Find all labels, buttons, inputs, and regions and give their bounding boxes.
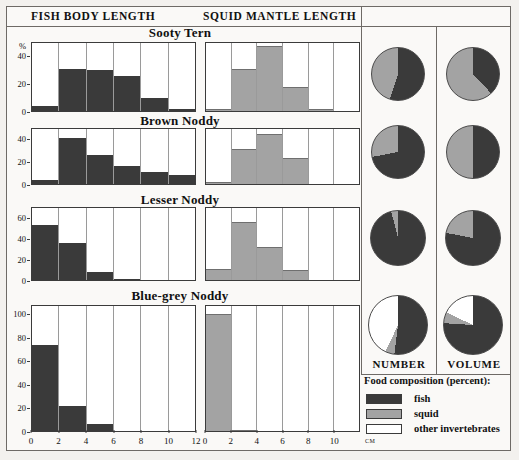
histogram-bin	[232, 43, 258, 112]
histogram-bin	[59, 129, 86, 185]
histogram-bin	[32, 208, 59, 281]
histogram-bin	[283, 43, 309, 112]
histogram-bin	[169, 43, 195, 112]
histogram-bin	[141, 129, 168, 185]
histogram-bin	[32, 43, 59, 112]
histogram-bin	[334, 129, 359, 185]
x-axis-tick-label: 8	[306, 436, 311, 446]
legend-title: Food composition (percent):	[364, 375, 490, 386]
x-axis-tickmark	[282, 430, 283, 433]
seabird-diet-figure: FISH BODY LENGTH SQUID MANTLE LENGTH Soo…	[0, 0, 519, 460]
x-axis-tickmark	[196, 430, 197, 433]
y-axis-tickmark	[27, 361, 30, 362]
x-axis-unit-label: cm	[365, 436, 375, 445]
histogram-bin	[59, 43, 86, 112]
y-axis-tickmark	[27, 385, 30, 386]
histogram-bin	[206, 129, 232, 185]
histogram-bar	[59, 138, 85, 185]
y-axis-tick-label: 100	[0, 309, 26, 319]
histogram-bin	[206, 43, 232, 112]
histogram-bin	[309, 306, 335, 432]
y-axis-tickmark	[27, 239, 30, 240]
histogram-bin	[59, 208, 86, 281]
histogram-bar	[59, 243, 85, 281]
x-axis-tickmark	[58, 430, 59, 433]
histogram-bin	[114, 129, 141, 185]
y-axis-tickmark	[27, 218, 30, 219]
y-axis-unit-label: %	[0, 41, 26, 51]
histogram-bin	[87, 129, 114, 185]
x-axis-tick-label: 4	[254, 436, 259, 446]
squid-axis-title: SQUID MANTLE LENGTH	[203, 10, 356, 22]
histogram-bar	[87, 70, 113, 112]
y-axis-tick-label: 20	[0, 157, 26, 167]
separator-number-volume	[436, 27, 437, 375]
histogram-bin	[232, 306, 258, 432]
y-axis-tick-label: 20	[0, 403, 26, 413]
x-axis-tickmark	[334, 430, 335, 433]
histogram-bins	[32, 129, 195, 185]
squid-length-histogram	[205, 305, 360, 432]
histogram-bins	[206, 43, 359, 112]
histogram-bin	[141, 43, 168, 112]
histogram-bin	[59, 306, 86, 432]
histogram-bin	[206, 306, 232, 432]
fish-length-histogram	[31, 128, 196, 185]
axis-baseline	[32, 184, 195, 185]
volume-pie-chart	[443, 295, 503, 355]
histogram-bin	[232, 208, 258, 281]
histogram-bin	[114, 306, 141, 432]
histogram-bin	[309, 43, 335, 112]
histogram-bins	[32, 208, 195, 281]
x-axis-tickmark	[86, 430, 87, 433]
histogram-bin	[32, 129, 59, 185]
histogram-bar	[283, 158, 308, 185]
volume-pie-chart	[446, 47, 500, 101]
histogram-bar	[114, 166, 140, 185]
axis-baseline	[206, 111, 359, 112]
x-axis-tick-label: 6	[280, 436, 285, 446]
y-axis-tick-label: 40	[0, 380, 26, 390]
y-axis-tick-label: 20	[0, 79, 26, 89]
histogram-bin	[114, 43, 141, 112]
x-axis-tick-label: 4	[84, 436, 89, 446]
x-axis-tick-label: 10	[164, 436, 173, 446]
x-axis-tick-label: 8	[139, 436, 144, 446]
x-axis-tick-label: 12	[192, 436, 201, 446]
y-axis-tick-label: 20	[0, 255, 26, 265]
histogram-bar	[232, 69, 257, 112]
squid-length-histogram	[205, 42, 360, 112]
histogram-bin	[334, 43, 359, 112]
histogram-bin	[114, 208, 141, 281]
y-axis-tick-label: 40	[0, 51, 26, 61]
histogram-bin	[334, 306, 359, 432]
histogram-bar	[141, 98, 167, 112]
fish-length-histogram	[31, 305, 196, 432]
pie-column-number: NUMBER	[362, 358, 436, 370]
axis-baseline	[206, 280, 359, 281]
pie-column-volume: VOLUME	[437, 358, 511, 370]
y-axis-tickmark	[27, 185, 30, 186]
volume-pie-chart	[445, 210, 501, 266]
histogram-bin	[169, 306, 195, 432]
legend-label: fish	[414, 393, 430, 404]
x-axis-tick-label: 10	[330, 436, 339, 446]
histogram-bin	[283, 129, 309, 185]
x-axis-tickmark	[256, 430, 257, 433]
histogram-bar	[87, 155, 113, 185]
x-axis-tickmark	[168, 430, 169, 433]
histogram-bins	[32, 306, 195, 432]
y-axis-tick-label: 40	[0, 234, 26, 244]
histogram-bin	[169, 129, 195, 185]
x-axis: 0246810120246810cm	[0, 433, 519, 449]
histogram-bar	[206, 314, 231, 432]
y-axis-tick-label: 0	[0, 180, 26, 190]
x-axis-tickmark	[230, 430, 231, 433]
x-axis-tickmark	[308, 430, 309, 433]
fish-length-histogram	[31, 207, 196, 281]
volume-pie-chart	[446, 125, 500, 179]
y-axis-tick-label: 60	[0, 213, 26, 223]
histogram-bin	[87, 306, 114, 432]
x-axis-tickmark	[205, 430, 206, 433]
legend-label: squid	[414, 408, 439, 419]
